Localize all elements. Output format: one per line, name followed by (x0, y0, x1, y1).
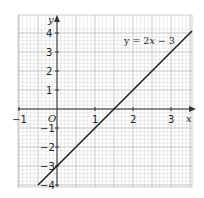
y-tick-label: 1 (46, 85, 52, 96)
x-tick-label: −1 (12, 114, 27, 125)
y-tick-label: 2 (46, 66, 52, 77)
y-tick-label: −2 (40, 142, 55, 153)
y-tick-label: −4 (40, 180, 55, 191)
y-tick-label: −3 (40, 161, 55, 172)
equation-label: y = 2x − 3 (123, 35, 175, 46)
line-y-equals-2x-minus-3 (38, 31, 192, 185)
y-axis-label: y (47, 14, 54, 25)
x-tick-label: 2 (130, 114, 136, 125)
origin-label: O (48, 113, 56, 124)
y-tick-label: −1 (40, 123, 55, 134)
x-axis-arrow-icon (189, 106, 196, 112)
y-tick-label: 4 (46, 28, 52, 39)
y-axis-arrow-icon (54, 15, 60, 22)
x-tick-label: 3 (168, 114, 174, 125)
graph: −1 1 2 3 4 3 2 1 −1 −2 −3 −4 O x y y = 2… (0, 0, 204, 198)
y-tick-label: 3 (46, 47, 52, 58)
x-tick-label: 1 (92, 114, 98, 125)
x-axis-label: x (186, 113, 192, 124)
